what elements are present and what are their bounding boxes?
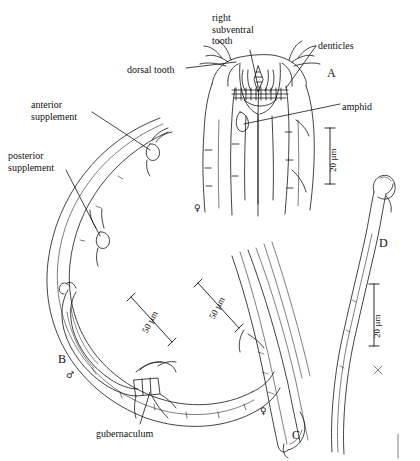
female-symbol-panel-c: ♀ xyxy=(260,406,267,416)
scale-bars xyxy=(127,128,379,346)
panel-letter-a: A xyxy=(327,66,336,81)
scale-label-d: 20 µm xyxy=(372,315,382,338)
male-symbol-panel-b: ♂ xyxy=(66,370,74,380)
panel-letter-c: C xyxy=(292,428,300,443)
leader-anterior-supplement xyxy=(92,112,150,150)
label-denticles: denticles xyxy=(318,40,354,52)
panel-a-drawing xyxy=(200,41,320,216)
leader-denticles xyxy=(286,46,316,88)
scale-label-a: 20 µm xyxy=(328,149,338,172)
label-posterior-supplement: posterior supplement xyxy=(8,150,54,173)
label-amphid: amphid xyxy=(342,101,372,113)
label-anterior-supplement: anterior supplement xyxy=(31,99,77,122)
panel-c-drawing xyxy=(232,242,310,458)
label-right-subventral-tooth: right subventral tooth xyxy=(212,12,254,47)
figure-linework xyxy=(0,0,420,461)
panel-letter-d: D xyxy=(379,236,388,251)
label-dorsal-tooth: dorsal tooth xyxy=(127,64,175,76)
panel-d-drawing xyxy=(332,175,399,458)
label-gubernaculum: gubernaculum xyxy=(96,428,153,440)
figure-plate: right subventral tooth denticles dorsal … xyxy=(0,0,420,461)
female-symbol-panel-a: ♀ xyxy=(194,203,201,213)
panel-letter-b: B xyxy=(58,352,66,367)
leader-posterior-supplement xyxy=(66,170,100,236)
